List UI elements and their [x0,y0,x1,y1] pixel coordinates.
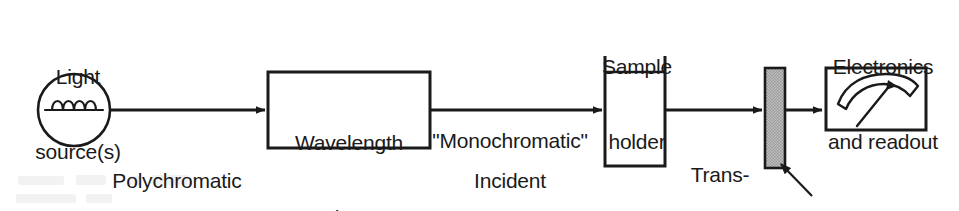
label-electronics-line1: Electronics [808,54,958,79]
label-transmitted-light: Trans- mitted light [672,112,768,211]
label-sample-holder-line1: Sample [572,54,702,79]
label-light-source-line1: Light [8,64,148,89]
spectrophotometer-diagram: Light source(s) Polychromatic light Wave… [0,0,959,211]
label-transmitted-line1: Trans- [672,162,768,187]
label-electronics-line2: and readout [808,129,958,154]
detector-bar [765,68,785,168]
label-wavelength-selector-line2: selector [268,205,430,211]
label-detector: Detector [812,170,932,211]
label-polychromatic-light: Polychromatic light [92,118,262,211]
label-polychromatic-line1: Polychromatic [92,168,262,193]
